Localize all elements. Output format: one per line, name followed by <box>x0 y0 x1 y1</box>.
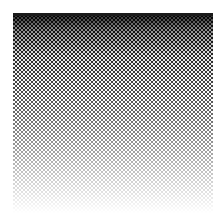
canvas <box>0 0 220 218</box>
white-fade-overlay <box>13 13 213 213</box>
top-edge-band <box>13 13 213 16</box>
halftone-gradient-square <box>13 13 213 213</box>
